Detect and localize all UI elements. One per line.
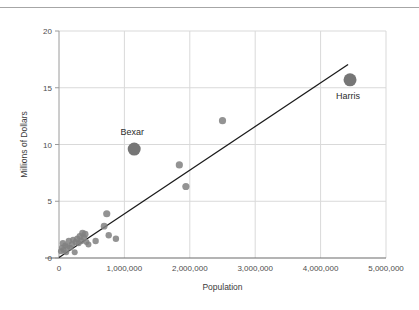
data-points: [58, 117, 226, 255]
data-point[interactable]: [113, 236, 119, 242]
data-point[interactable]: [182, 183, 189, 190]
x-tick-label: 2,000,000: [172, 264, 208, 273]
x-axis-title: Population: [202, 282, 242, 292]
y-axis-ticks: 05101520: [43, 27, 59, 263]
x-tick-label: 1,000,000: [107, 264, 143, 273]
y-tick-label: 20: [43, 27, 52, 36]
x-tick-label: 5,000,000: [368, 264, 404, 273]
data-point[interactable]: [176, 161, 183, 168]
scatter-plot: 0510152001,000,0002,000,0003,000,0004,00…: [0, 0, 419, 310]
y-tick-label: 10: [43, 141, 52, 150]
y-axis-title: Millions of Dollars: [19, 111, 29, 178]
chart-figure: 0510152001,000,0002,000,0003,000,0004,00…: [0, 0, 419, 310]
x-tick-label: 3,000,000: [237, 264, 273, 273]
data-point[interactable]: [101, 223, 108, 230]
highlighted-points: BexarHarris: [120, 73, 360, 155]
data-point[interactable]: [72, 249, 78, 255]
highlighted-data-point[interactable]: [128, 143, 141, 156]
data-point-label: Harris: [336, 91, 360, 101]
data-point[interactable]: [82, 231, 89, 238]
highlighted-data-point[interactable]: [344, 73, 357, 86]
data-point[interactable]: [103, 210, 110, 217]
data-point[interactable]: [85, 241, 91, 247]
y-tick-label: 0: [48, 254, 53, 263]
data-point-label: Bexar: [120, 127, 144, 137]
data-point[interactable]: [92, 238, 98, 244]
y-tick-label: 15: [43, 84, 52, 93]
data-point[interactable]: [63, 249, 69, 255]
x-tick-label: 0: [57, 264, 62, 273]
data-point[interactable]: [219, 117, 226, 124]
x-tick-label: 4,000,000: [303, 264, 339, 273]
x-axis-ticks: 01,000,0002,000,0003,000,0004,000,0005,0…: [57, 264, 405, 273]
data-point[interactable]: [106, 232, 112, 238]
y-tick-label: 5: [48, 197, 53, 206]
